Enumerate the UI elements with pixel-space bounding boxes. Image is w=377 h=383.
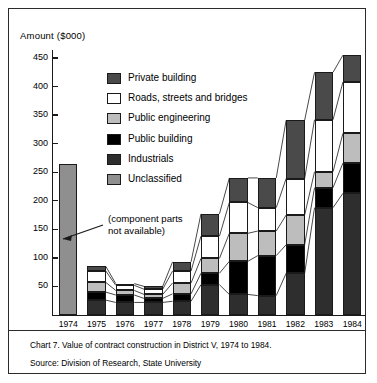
bar-segment-public-engineering[interactable] — [286, 215, 305, 245]
annotation-line-1: (component parts — [108, 213, 183, 225]
bar-segment-public-building[interactable] — [286, 245, 305, 274]
bar-1978[interactable] — [173, 8, 192, 315]
x-tick-label-1979: 1979 — [196, 319, 224, 329]
bar-segment-industrials[interactable] — [315, 208, 334, 315]
bar-segment-roads-streets-and-bridges[interactable] — [144, 289, 163, 294]
legend-label-unclass: Unclassified — [128, 172, 182, 186]
bar-1974[interactable] — [59, 8, 78, 315]
y-tick-label-text: 300 — [18, 139, 48, 148]
bar-segment-roads-streets-and-bridges[interactable] — [258, 208, 277, 231]
bar-segment-industrials[interactable] — [258, 296, 277, 315]
bar-segment-public-building[interactable] — [144, 298, 163, 302]
bar-1981[interactable] — [258, 8, 277, 315]
bar-segment-industrials[interactable] — [343, 193, 362, 315]
y-tick-250 — [52, 172, 58, 173]
y-tick-label-50: 50 — [16, 281, 48, 290]
bar-segment-private-building[interactable] — [173, 262, 192, 271]
bar-1975[interactable] — [87, 8, 106, 315]
y-tick-400 — [52, 86, 58, 87]
bar-1984[interactable] — [343, 8, 362, 315]
legend-swatch-roads — [107, 93, 121, 104]
x-tick-label-1977: 1977 — [139, 319, 167, 329]
bar-segment-industrials[interactable] — [286, 273, 305, 315]
bar-segment-public-building[interactable] — [87, 292, 106, 300]
legend-label-pubbld: Public building — [128, 132, 193, 146]
bar-segment-private-building[interactable] — [87, 266, 106, 271]
legend-label-roads: Roads, streets and bridges — [128, 91, 248, 105]
caption-source: Source: Division of Research, State Univ… — [30, 358, 201, 368]
annotation-arrow-icon — [53, 222, 105, 244]
bar-segment-private-building[interactable] — [343, 55, 362, 82]
bar-segment-industrials[interactable] — [229, 294, 248, 315]
y-tick-label-350: 350 — [16, 110, 48, 119]
bar-segment-roads-streets-and-bridges[interactable] — [87, 271, 106, 282]
bar-segment-public-engineering[interactable] — [229, 233, 248, 261]
bar-segment-roads-streets-and-bridges[interactable] — [116, 285, 135, 290]
y-tick-label-text: 450 — [18, 53, 48, 62]
y-tick-label-text: 50 — [18, 281, 48, 290]
bar-segment-public-engineering[interactable] — [315, 172, 334, 188]
y-tick-label-150: 150 — [16, 224, 48, 233]
bar-segment-private-building[interactable] — [144, 286, 163, 289]
bar-segment-public-engineering[interactable] — [144, 294, 163, 298]
bar-segment-private-building[interactable] — [229, 178, 248, 203]
bar-segment-public-engineering[interactable] — [116, 290, 135, 295]
x-tick-label-1975: 1975 — [82, 319, 110, 329]
legend-swatch-pubeng — [107, 113, 121, 124]
y-tick-label-text: 200 — [18, 196, 48, 205]
bar-segment-industrials[interactable] — [87, 300, 106, 315]
legend-label-pubeng: Public engineering — [128, 111, 210, 125]
chart-figure: Amount ($000) 50100150200250300350400450… — [0, 0, 377, 383]
bar-segment-industrials[interactable] — [116, 302, 135, 315]
bar-segment-public-engineering[interactable] — [201, 258, 220, 273]
bar-segment-public-building[interactable] — [315, 188, 334, 208]
bar-segment-roads-streets-and-bridges[interactable] — [343, 82, 362, 133]
legend-label-private: Private building — [128, 71, 196, 85]
bar-segment-public-engineering[interactable] — [343, 133, 362, 163]
y-tick-label-100: 100 — [16, 253, 48, 262]
x-tick-label-1974: 1974 — [54, 319, 82, 329]
y-tick-label-200: 200 — [16, 196, 48, 205]
y-tick-label-text: 350 — [18, 110, 48, 119]
legend-swatch-pubbld — [107, 134, 121, 145]
x-tick-label-1983: 1983 — [310, 319, 338, 329]
caption-title: Chart 7. Value of contract construction … — [30, 340, 272, 350]
annotation-text: (component parts not available) — [108, 213, 183, 236]
bar-segment-private-building[interactable] — [315, 72, 334, 119]
y-tick-label-450: 450 — [16, 53, 48, 62]
bar-segment-roads-streets-and-bridges[interactable] — [201, 236, 220, 258]
bar-segment-roads-streets-and-bridges[interactable] — [286, 179, 305, 216]
bar-segment-private-building[interactable] — [286, 120, 305, 178]
bar-segment-public-engineering[interactable] — [173, 283, 192, 294]
bar-segment-public-building[interactable] — [201, 273, 220, 284]
bar-segment-public-building[interactable] — [116, 295, 135, 302]
bar-segment-roads-streets-and-bridges[interactable] — [173, 271, 192, 283]
bar-segment-private-building[interactable] — [201, 214, 220, 236]
x-tick-label-1976: 1976 — [111, 319, 139, 329]
y-tick-label-400: 400 — [16, 82, 48, 91]
bar-segment-private-building[interactable] — [258, 178, 277, 208]
bar-segment-public-engineering[interactable] — [258, 231, 277, 256]
bar-segment-roads-streets-and-bridges[interactable] — [229, 202, 248, 233]
plot-area: Amount ($000) 50100150200250300350400450… — [8, 8, 366, 330]
bar-segment-industrials[interactable] — [201, 285, 220, 315]
legend-swatch-private — [107, 73, 121, 84]
bar-1979[interactable] — [201, 8, 220, 315]
bar-segment-roads-streets-and-bridges[interactable] — [315, 120, 334, 172]
legend-label-indus: Industrials — [128, 152, 174, 166]
y-tick-label-text: 400 — [18, 82, 48, 91]
bar-segment-public-building[interactable] — [229, 261, 248, 294]
y-tick-50 — [52, 286, 58, 287]
bar-1980[interactable] — [229, 8, 248, 315]
bar-segment-industrials[interactable] — [144, 302, 163, 315]
bar-1983[interactable] — [315, 8, 334, 315]
bar-segment-public-engineering[interactable] — [87, 282, 106, 292]
bar-1982[interactable] — [286, 8, 305, 315]
bar-segment-public-building[interactable] — [258, 256, 277, 296]
bar-segment-public-building[interactable] — [343, 163, 362, 193]
bar-segment-private-building[interactable] — [116, 284, 135, 286]
y-axis-line — [52, 50, 53, 316]
x-tick-label-1981: 1981 — [253, 319, 281, 329]
bar-segment-public-building[interactable] — [173, 294, 192, 301]
bar-segment-industrials[interactable] — [173, 301, 192, 315]
